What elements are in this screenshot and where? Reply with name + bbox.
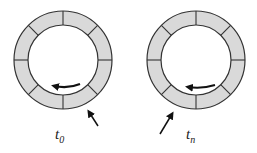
pointer-arrow-icon: [89, 112, 98, 126]
ring-t0: [14, 11, 112, 126]
time-label-tn: tn: [186, 126, 195, 145]
ring-buffer-diagram: [0, 0, 257, 153]
ring-tn: [147, 11, 245, 134]
pointer-arrow-icon: [160, 114, 172, 134]
time-label-t0: t0: [55, 126, 64, 145]
